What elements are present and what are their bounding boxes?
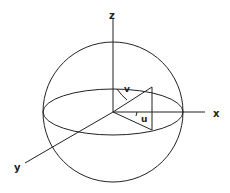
x-axis-label: x [213,108,220,119]
angle-v-label: v [124,84,130,94]
angle-u-label: u [141,114,147,124]
sphere-diagram: z x y v u [0,0,230,193]
y-axis-label: y [14,162,21,173]
angle-u-tick [136,112,137,116]
y-axis [25,112,113,163]
z-axis-label: z [109,10,115,21]
